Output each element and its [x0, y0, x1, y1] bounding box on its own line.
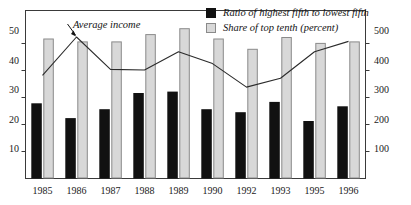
bar-share-1987 [112, 42, 122, 178]
legend-swatch-dark-icon [206, 8, 216, 18]
bar-ratio-1987 [99, 109, 110, 178]
bar-share-1993 [282, 38, 292, 179]
year-label-1988: 1988 [128, 186, 162, 196]
legend-label-share: Share of top tenth (percent) [223, 22, 338, 33]
year-label-1986: 1986 [60, 186, 94, 196]
average-income-line [43, 37, 349, 87]
bar-ratio-1985 [31, 103, 42, 178]
bar-share-1989 [180, 29, 190, 178]
bar-ratio-1996 [337, 106, 348, 178]
left-tick-label-10: 10 [0, 144, 19, 154]
right-tick-label-100: 100 [374, 144, 408, 154]
legend-item-share: Share of top tenth (percent) [206, 21, 408, 34]
bar-share-1996 [350, 42, 360, 178]
income-inequality-chart: 1020304050 100200300400500 1985198619871… [0, 0, 411, 205]
bar-ratio-1989 [167, 92, 178, 179]
bar-ratio-1995 [303, 121, 314, 179]
year-label-1995: 1995 [298, 186, 332, 196]
right-axis-ticks [366, 44, 370, 152]
left-tick-label-20: 20 [0, 115, 19, 125]
bar-share-1988 [146, 35, 156, 178]
year-label-1990: 1990 [196, 186, 230, 196]
right-tick-label-200: 200 [374, 115, 408, 125]
legend-label-ratio: Ratio of highest fifth to lowest fifth [223, 7, 369, 18]
bars-layer [31, 29, 359, 179]
left-tick-label-40: 40 [0, 56, 19, 66]
left-axis-ticks [22, 44, 26, 152]
year-label-1992: 1992 [230, 186, 264, 196]
left-tick-label-50: 50 [0, 26, 19, 36]
chart-legend: Ratio of highest fifth to lowest fifth S… [206, 6, 408, 36]
bar-ratio-1986 [65, 118, 76, 178]
year-label-1993: 1993 [264, 186, 298, 196]
right-tick-label-300: 300 [374, 85, 408, 95]
bar-share-1990 [214, 39, 224, 178]
bar-share-1986 [78, 42, 88, 178]
bar-ratio-1993 [269, 102, 280, 179]
bar-ratio-1988 [133, 93, 144, 179]
year-label-1987: 1987 [94, 186, 128, 196]
bar-share-1992 [248, 49, 257, 178]
legend-swatch-light-icon [206, 23, 216, 33]
bar-share-1995 [316, 43, 326, 178]
annotation-arrowhead-icon [71, 31, 76, 37]
year-label-1985: 1985 [26, 186, 60, 196]
left-tick-label-30: 30 [0, 85, 19, 95]
average-income-polyline [43, 37, 349, 87]
legend-item-ratio: Ratio of highest fifth to lowest fifth [206, 6, 408, 19]
bar-ratio-1990 [201, 109, 212, 178]
year-label-1989: 1989 [162, 186, 196, 196]
bar-share-1985 [44, 39, 54, 178]
right-tick-label-400: 400 [374, 56, 408, 66]
year-label-1996: 1996 [332, 186, 366, 196]
annotation-average-income-label: Average income [73, 19, 140, 30]
bar-ratio-1992 [235, 112, 246, 178]
